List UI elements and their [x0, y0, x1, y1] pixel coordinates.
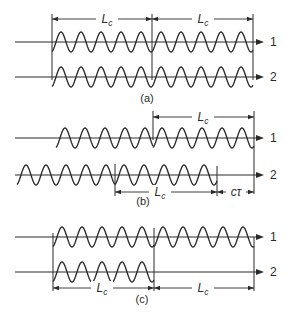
dimension-label: cτ — [231, 185, 243, 199]
beam-label: 1 — [270, 35, 277, 49]
panel-caption: (a) — [140, 92, 153, 104]
panel-caption: (b) — [136, 195, 149, 207]
dimension-symbol: L — [102, 12, 109, 26]
beam-label: 2 — [270, 265, 277, 279]
dimension-symbol: L — [155, 185, 162, 199]
dimension-symbol: L — [198, 281, 205, 295]
beam-label: 2 — [270, 70, 277, 84]
panel-caption: (c) — [136, 293, 149, 305]
beam-label: 1 — [270, 131, 277, 145]
beam-label: 1 — [270, 230, 277, 244]
background — [0, 0, 289, 319]
dimension-symbol: cτ — [231, 185, 243, 199]
dimension-symbol: L — [97, 281, 104, 295]
coherence-length-diagram: 12LcLc(a)12LcLccτ(b)12LcLc(c) — [0, 0, 289, 319]
beam-label: 2 — [270, 168, 277, 182]
dimension-symbol: L — [198, 12, 205, 26]
dimension-symbol: L — [198, 110, 205, 124]
